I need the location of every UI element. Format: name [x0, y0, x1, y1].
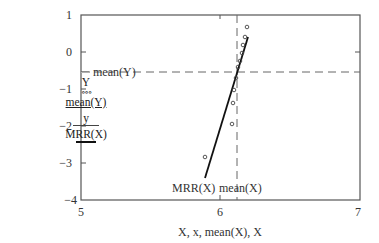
legend-mrr: MRR(X): [58, 128, 114, 141]
x-tick-6: 6: [217, 205, 223, 219]
data-points: [203, 25, 249, 159]
legend-mean-y: mean(Y): [58, 96, 114, 109]
legend-y-small: y: [58, 112, 114, 125]
chart-canvas: 1 0 −1 −2 −3 −4 5 6 7 X, x, mean(X), X m…: [0, 0, 379, 243]
y-tick-m3: −3: [59, 156, 72, 170]
legend-y-marker: ∘∘∘: [58, 89, 114, 96]
y-tick-0: 0: [66, 45, 72, 59]
legend-mrr-line: [76, 141, 96, 143]
x-tick-5: 5: [78, 205, 84, 219]
mrr-annotation: MRR(X): [172, 181, 215, 195]
legend-y-line: [73, 125, 99, 126]
mean-x-annotation: mean(X): [219, 181, 262, 195]
y-tick-1: 1: [66, 8, 72, 22]
legend: Y ∘∘∘ mean(Y) y MRR(X): [58, 76, 114, 143]
y-tick-m4: −4: [64, 193, 77, 207]
plot-frame: [81, 15, 360, 200]
regression-line: [205, 37, 248, 178]
x-tick-7: 7: [355, 205, 361, 219]
x-axis-label: X, x, mean(X), X: [178, 225, 262, 239]
